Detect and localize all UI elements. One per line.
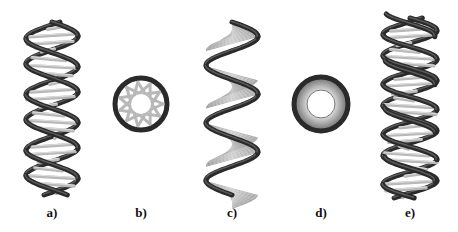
panel-label-b: b) <box>135 205 147 221</box>
inner-hole <box>131 94 151 114</box>
panel-d-ring <box>294 77 348 131</box>
panel-c-ribbon-helix <box>205 21 258 209</box>
panel-label-d: d) <box>315 205 327 221</box>
panel-label-a: a) <box>47 205 58 221</box>
panel-a-helix <box>25 21 78 195</box>
panel-b-ring <box>115 78 167 130</box>
panel-e-double-helix <box>382 13 437 198</box>
helix-figure <box>0 0 458 232</box>
panel-label-c: c) <box>227 205 237 221</box>
panel-label-e: e) <box>405 205 415 221</box>
inner-hole <box>307 90 335 118</box>
